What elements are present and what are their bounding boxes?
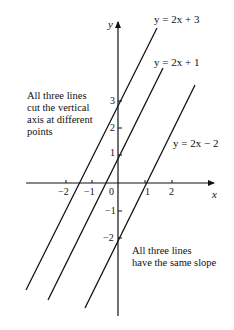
annotation-line: points bbox=[27, 126, 93, 138]
y-tick-label: 1 bbox=[110, 148, 115, 158]
y-tick-label: 2 bbox=[110, 123, 115, 133]
annotation-line: have the same slope bbox=[132, 257, 216, 269]
equation-label-2x-minus-2: y = 2x − 2 bbox=[173, 137, 218, 149]
y-tick-label: 3 bbox=[110, 96, 115, 106]
annotation-line: All three lines bbox=[132, 245, 216, 257]
y-tick-label: −1 bbox=[105, 206, 116, 216]
x-axis-label: x bbox=[212, 188, 217, 200]
annotation-same-slope: All three lines have the same slope bbox=[132, 245, 216, 269]
annotation-line: cut the vertical bbox=[27, 102, 93, 114]
x-tick-label: −2 bbox=[58, 187, 69, 197]
equation-label-2x-plus-3: y = 2x + 3 bbox=[154, 13, 199, 25]
x-tick-label: 0 bbox=[109, 187, 114, 197]
x-tick-label: 2 bbox=[169, 187, 174, 197]
equation-label-2x-plus-1: y = 2x + 1 bbox=[154, 56, 199, 68]
y-axis-label: y bbox=[108, 18, 113, 30]
annotation-different-points: All three lines cut the vertical axis at… bbox=[27, 90, 93, 138]
y-tick-label: −2 bbox=[103, 233, 114, 243]
annotation-line: All three lines bbox=[27, 90, 93, 102]
x-tick-label: 1 bbox=[145, 187, 150, 197]
x-tick-label: −1 bbox=[84, 187, 95, 197]
line-2x-minus-2 bbox=[85, 85, 195, 308]
annotation-line: axis at different bbox=[27, 114, 93, 126]
line-chart bbox=[0, 0, 234, 330]
